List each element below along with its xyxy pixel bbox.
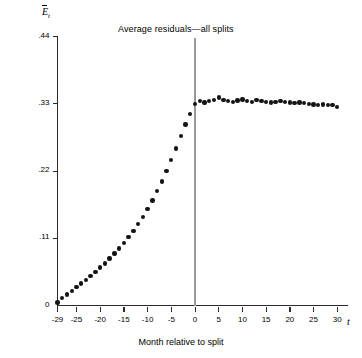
x-tick-label: 0 [183,315,207,324]
x-tick-label: 5 [207,315,231,324]
x-tick-mark [57,307,58,312]
data-point [226,99,230,103]
x-tick-label: 15 [254,315,278,324]
y-tick-mark [53,238,58,239]
data-point [136,222,140,226]
data-point [297,100,301,104]
data-point [292,101,296,105]
y-tick-label: 0 [24,300,50,309]
y-tick-label: .11 [24,232,50,241]
data-point [160,179,164,183]
data-point [55,300,59,304]
x-tick-mark [218,307,219,312]
data-point [93,270,97,274]
data-point [183,122,187,126]
data-point [174,146,178,150]
data-point [70,289,74,293]
x-tick-mark [289,307,290,312]
x-tick-mark [123,307,124,312]
x-axis-line [58,305,349,306]
data-point [122,241,126,245]
data-point [326,103,330,107]
y-axis-symbol-base: E [42,6,48,17]
data-point [107,256,111,260]
data-point [302,101,306,105]
data-point [60,296,64,300]
y-tick-label: .22 [24,165,50,174]
data-point [221,98,225,102]
y-tick-mark [53,171,58,172]
x-tick-label: 30 [325,315,349,324]
data-point [335,105,339,109]
data-point [198,99,202,103]
data-point [117,246,121,250]
x-tick-mark [171,307,172,312]
data-point [217,95,221,99]
data-point [141,215,145,219]
data-point [288,100,292,104]
data-point [88,274,92,278]
x-tick-mark [76,307,77,312]
y-tick-mark [53,36,58,37]
figure-canvas: Et Average residuals—all splits Cumulati… [0,0,362,358]
data-point [207,99,211,103]
x-tick-mark [313,307,314,312]
data-point [250,100,254,104]
x-tick-label: -5 [159,315,183,324]
data-point [311,102,315,106]
x-tick-mark [147,307,148,312]
chart-title: Average residuals—all splits [118,24,234,34]
data-point [188,112,192,116]
data-point [212,98,216,102]
data-point [231,100,235,104]
data-point [131,229,135,233]
y-axis-symbol: Et [42,6,50,20]
x-tick-mark [242,307,243,312]
x-axis-title: Month relative to split [0,337,362,347]
event-vline-split-month [194,38,195,306]
x-tick-label: -20 [88,315,112,324]
data-point [264,100,268,104]
data-point [283,100,287,104]
x-tick-label: -25 [64,315,88,324]
x-tick-label: 20 [278,315,302,324]
data-point [193,102,197,106]
data-point [273,100,277,104]
data-point [269,100,273,104]
data-point [245,99,249,103]
data-point [112,251,116,255]
x-tick-mark [195,307,196,312]
y-tick-mark [53,103,58,104]
data-point [278,99,282,103]
data-point [316,103,320,107]
data-point [235,98,239,102]
y-tick-label: .44 [24,31,50,40]
data-point [155,189,159,193]
data-point [254,98,258,102]
data-point [79,281,83,285]
data-point [126,235,130,239]
y-axis-symbol-subscript: t [48,12,50,20]
data-point [65,292,69,296]
data-point [307,102,311,106]
data-point [321,102,325,106]
data-point [330,103,334,107]
x-tick-label: 25 [302,315,326,324]
data-point [202,100,206,104]
data-point [145,207,149,211]
data-point [103,261,107,265]
data-point [98,265,102,269]
data-point [84,278,88,282]
y-tick-label: .33 [24,98,50,107]
x-tick-label: 10 [230,315,254,324]
x-tick-label: -15 [112,315,136,324]
data-point [74,285,78,289]
x-tick-mark [337,307,338,312]
data-point [169,158,173,162]
data-point [259,99,263,103]
data-point [179,134,183,138]
data-point [150,198,154,202]
x-tick-mark [266,307,267,312]
x-tick-mark [100,307,101,312]
x-tick-label: -10 [136,315,160,324]
